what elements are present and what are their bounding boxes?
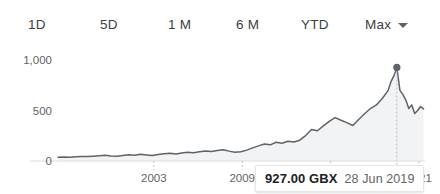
stock-chart-widget: 1D 5D 1 M 6 M YTD Max 05001,000 20032009… [0,0,440,194]
price-chart: 05001,000 2003200920152021 927.00 GBX 28… [0,38,440,194]
tab-range-6m[interactable]: 6 M [236,12,259,38]
y-tick-label: 500 [33,105,52,117]
tooltip-price-label: 927.00 GBX [265,171,338,186]
range-selector-tabbar: 1D 5D 1 M 6 M YTD Max [0,12,440,38]
chart-area-fill [58,67,424,161]
tab-range-1d[interactable]: 1D [28,12,46,38]
x-tick-label: 2003 [141,172,167,184]
x-tick-label: 2009 [229,172,255,184]
y-tick-label: 1,000 [23,54,52,66]
chart-y-axis-labels: 05001,000 [23,54,52,167]
chart-highlight-marker [393,64,400,71]
tab-range-5d[interactable]: 5D [100,12,118,38]
tab-range-1m[interactable]: 1 M [168,12,191,38]
tooltip-date-label: 28 Jun 2019 [345,172,415,186]
tab-range-max[interactable]: Max [365,12,391,38]
tab-range-ytd[interactable]: YTD [301,12,329,38]
chart-value-tooltip: 927.00 GBX 28 Jun 2019 [255,165,424,192]
y-tick-label: 0 [46,155,52,167]
chevron-down-icon[interactable] [398,23,408,28]
